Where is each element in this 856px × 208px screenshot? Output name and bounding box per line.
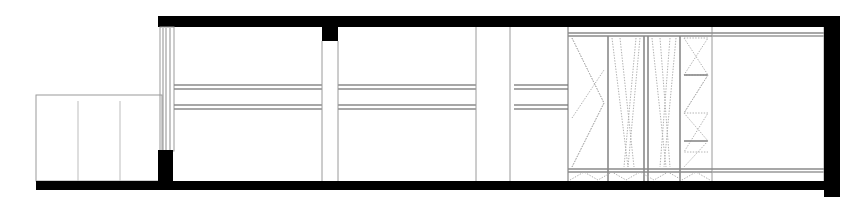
annex-outline bbox=[36, 95, 162, 181]
interior-partitions bbox=[322, 27, 824, 181]
brace-bay-d-zigzag bbox=[684, 38, 708, 152]
section-drawing-svg bbox=[0, 0, 856, 208]
brace-bay-d-diag-4 bbox=[684, 141, 708, 167]
truss-bottom-zigzag bbox=[570, 172, 710, 180]
base-and-end-wall bbox=[36, 16, 840, 197]
brace-bay-a-upper bbox=[572, 38, 604, 103]
brace-bay-d-diag-2 bbox=[684, 75, 708, 113]
right-end-wall bbox=[824, 16, 840, 197]
left-annex bbox=[36, 95, 162, 181]
brace-bay-a-lower bbox=[572, 103, 604, 167]
floor-beams bbox=[174, 85, 568, 109]
braced-truss-bay bbox=[568, 33, 824, 181]
roof-column-stub bbox=[322, 26, 338, 41]
brace-bay-b-mid-left bbox=[620, 38, 634, 167]
brace-bay-a-arrow bbox=[572, 38, 604, 167]
glazed-mullion-wall bbox=[158, 27, 174, 190]
brace-bay-c-left bbox=[652, 38, 666, 167]
section-drawing-canvas: Building Section bbox=[0, 0, 856, 208]
brace-bay-c-right bbox=[664, 38, 676, 167]
brace-bay-d-diag-3 bbox=[684, 113, 708, 141]
roof-slab-group bbox=[158, 16, 840, 41]
ground-slab bbox=[36, 181, 838, 190]
roof-slab bbox=[158, 16, 840, 27]
